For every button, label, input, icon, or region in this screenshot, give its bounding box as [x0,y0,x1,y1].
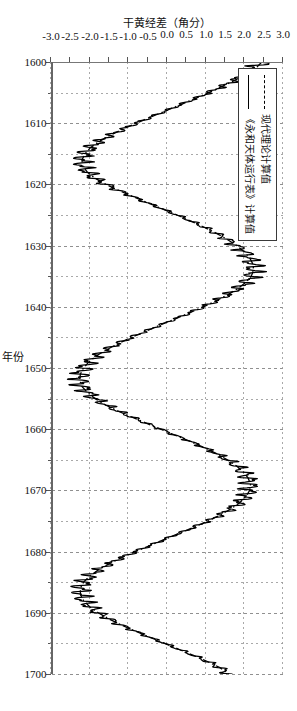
y-axis-title: 干黄经差（角分） [123,14,211,30]
y-tick-label: -2.5 [62,31,79,42]
rotated-chart-figure: 1600161016201630164016501660167016801690… [0,0,297,711]
y-axis-line [51,62,283,63]
y-tick-label: 2.0 [237,29,251,40]
x-tick-label: 1610 [25,118,47,129]
x-axis-tick [46,674,51,675]
x-tick-label: 1670 [25,485,47,496]
y-tick-label: -3.0 [42,31,59,42]
x-tick-label: 1700 [25,669,47,680]
y-tick-label: -1.0 [120,31,137,42]
legend-item-historical: 《永和天体运行表》计算值 [243,75,256,234]
x-axis-line [51,62,53,674]
y-tick-label: 0.0 [160,29,174,40]
x-tick-label: 1660 [25,424,47,435]
x-tick-label: 1680 [25,546,47,557]
legend: 现代理论计算值 《永和天体运行表》计算值 [238,68,277,241]
legend-item-theoretical: 现代理论计算值 [259,75,272,234]
x-tick-label: 1630 [25,240,47,251]
figure-stage: 1600161016201630164016501660167016801690… [0,0,297,711]
x-tick-label: 1650 [25,363,47,374]
legend-label-historical: 《永和天体运行表》计算值 [244,114,255,234]
y-tick-label: -1.5 [100,31,117,42]
y-tick-label: 1.0 [199,29,213,40]
y-tick-label: 1.5 [218,29,232,40]
x-tick-label: 1640 [25,301,47,312]
gridline-vertical [51,674,283,675]
x-tick-label: 1600 [25,57,47,68]
y-tick-label: 3.0 [276,29,290,40]
x-tick-label: 1620 [25,179,47,190]
y-tick-label: -0.5 [139,31,156,42]
legend-label-theoretical: 现代理论计算值 [260,114,271,184]
x-axis-title: 年份 [2,348,24,364]
y-tick-label: 2.5 [257,29,271,40]
y-tick-label: 0.5 [179,29,193,40]
y-tick-label: -2.0 [81,31,98,42]
x-tick-label: 1690 [25,607,47,618]
series-line-theoretical [80,62,262,674]
